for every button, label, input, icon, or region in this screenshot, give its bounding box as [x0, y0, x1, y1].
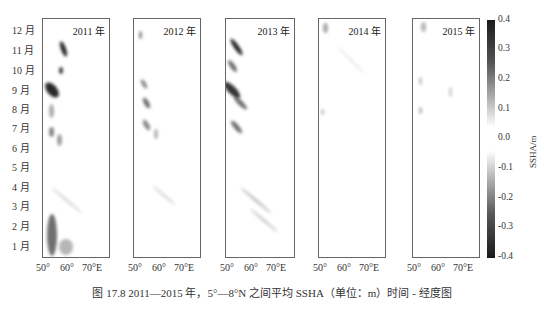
anomaly — [141, 119, 151, 132]
y-tick: 11 月 — [12, 42, 42, 57]
x-tick: 50° — [407, 262, 421, 273]
panel-title: 2011 年 — [73, 23, 105, 38]
panel-title: 2012 年 — [164, 23, 197, 38]
colorbar — [487, 20, 495, 258]
x-tick: 70°E — [174, 262, 194, 273]
anomaly — [232, 95, 248, 111]
x-tick: 70°E — [266, 262, 286, 273]
anomaly — [141, 97, 151, 110]
panel-title: 2013 年 — [258, 23, 291, 38]
y-tick: 12 月 — [12, 22, 42, 37]
x-tick: 50° — [36, 262, 50, 273]
anomaly — [152, 185, 177, 207]
anomaly — [139, 31, 142, 39]
cb-tick: -0.4 — [498, 251, 513, 261]
anomaly — [229, 37, 245, 56]
x-tick: 50° — [313, 262, 327, 273]
y-tick: 9 月 — [12, 82, 42, 97]
anomaly — [240, 186, 273, 214]
panel-2014: 2014 年 — [318, 18, 386, 258]
anomaly — [449, 87, 452, 97]
anomaly — [249, 208, 279, 233]
x-tick: 70°E — [453, 262, 473, 273]
panel-title: 2014 年 — [349, 23, 382, 38]
x-tick: 50° — [220, 262, 234, 273]
anomaly — [51, 186, 84, 214]
panel-2011: 2011 年 — [42, 18, 110, 258]
y-tick: 5 月 — [12, 159, 42, 174]
x-tick: 60° — [60, 262, 74, 273]
anomaly — [42, 80, 61, 100]
y-tick: 2 月 — [12, 218, 42, 233]
y-tick: 10 月 — [12, 62, 42, 77]
figure-caption: 图 17.8 2011—2015 年，5°—8°N 之间平均 SSHA（单位：m… — [0, 284, 544, 300]
x-tick: 60° — [152, 262, 166, 273]
anomaly — [140, 79, 148, 90]
x-tick: 60° — [431, 262, 445, 273]
panel-2013: 2013 年 — [225, 18, 295, 258]
cb-tick: 0.2 — [498, 73, 510, 83]
anomaly — [226, 59, 238, 73]
cb-tick: 0.1 — [498, 103, 510, 113]
colorbar-label: SSHA/m — [528, 135, 538, 168]
x-tick: 60° — [337, 262, 351, 273]
anomaly — [419, 107, 422, 114]
anomaly — [49, 127, 54, 137]
panel-2012: 2012 年 — [133, 18, 201, 258]
anomaly — [57, 134, 62, 146]
anomaly — [323, 23, 328, 33]
cb-tick: -0.3 — [498, 221, 513, 231]
x-tick: 70°E — [359, 262, 379, 273]
anomaly — [59, 67, 63, 74]
y-tick: 3 月 — [12, 198, 42, 213]
cb-tick: -0.2 — [498, 192, 513, 202]
panel-title: 2015 年 — [443, 23, 476, 38]
anomaly — [229, 119, 243, 134]
anomaly — [59, 239, 73, 255]
anomaly — [321, 109, 324, 115]
anomaly — [154, 129, 158, 139]
x-tick: 50° — [128, 262, 142, 273]
anomaly — [47, 214, 57, 256]
anomaly — [336, 45, 366, 75]
cb-tick: 0.3 — [498, 43, 510, 53]
anomaly — [49, 104, 54, 118]
cb-tick: 0.4 — [498, 14, 510, 24]
y-tick: 1 月 — [12, 238, 42, 253]
x-tick: 60° — [244, 262, 258, 273]
anomaly — [58, 41, 68, 58]
x-tick: 70°E — [82, 262, 102, 273]
y-tick: 7 月 — [12, 120, 42, 135]
y-tick: 8 月 — [12, 101, 42, 116]
panel-2015: 2015 年 — [412, 18, 480, 258]
anomaly — [421, 22, 426, 32]
y-tick: 6 月 — [12, 140, 42, 155]
y-tick: 4 月 — [12, 179, 42, 194]
cb-tick: 0.0 — [498, 132, 510, 142]
cb-tick: -0.1 — [498, 162, 513, 172]
anomaly — [419, 77, 422, 85]
